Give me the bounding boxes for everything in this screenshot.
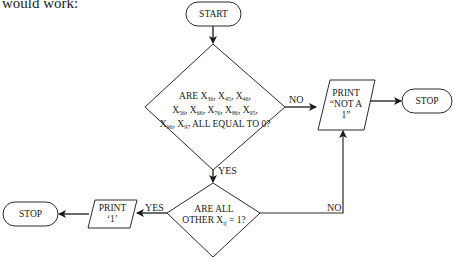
edge-label-d2-no: NO (327, 202, 341, 213)
edge-label-d2-yes: YES (145, 202, 164, 213)
stop-left-label: STOP (3, 209, 58, 220)
edge-decision2-no (260, 131, 343, 213)
print-one-line1: PRINT (90, 203, 135, 214)
decision1-line3: X96, X97 ALL EQUAL TO 0? (150, 119, 280, 133)
decision2-line1: ARE ALL (175, 204, 253, 215)
decision2-line2: OTHER Xij = 1? (175, 215, 253, 229)
decision1-line1: ARE X36, X45, X46, (150, 91, 280, 105)
edge-label-d1-yes: YES (218, 165, 237, 176)
print-not-one-line2: “NOT A (320, 99, 372, 110)
print-not-one-line1: PRINT (320, 88, 372, 99)
decision2-label: ARE ALL OTHER Xij = 1? (175, 204, 253, 229)
print-one-label: PRINT ‘1’ (90, 203, 135, 225)
decision1-label: ARE X36, X45, X46, X56, X66, X76, X86, X… (150, 91, 280, 133)
print-not-one-label: PRINT “NOT A 1” (320, 88, 372, 121)
decision1-line2: X56, X66, X76, X86, X95, (150, 105, 280, 119)
print-one-line2: ‘1’ (90, 214, 135, 225)
print-not-one-line3: 1” (320, 110, 372, 121)
edge-label-d1-no: NO (289, 94, 303, 105)
stop-right-label: STOP (402, 96, 452, 107)
start-label: START (186, 9, 241, 20)
